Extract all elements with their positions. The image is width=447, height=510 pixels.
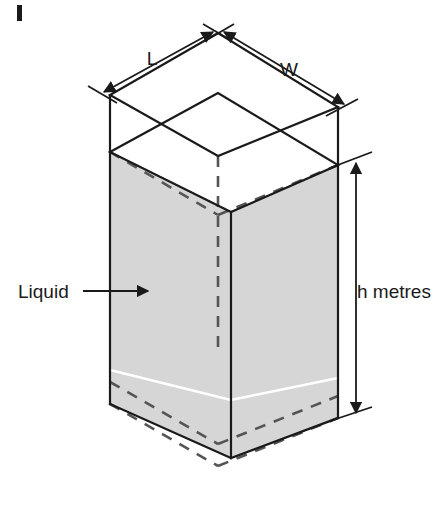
arrow-length bbox=[104, 32, 213, 92]
figure-root: L W h metres Liquid bbox=[0, 0, 447, 510]
liquid-body bbox=[110, 152, 338, 458]
label-width: W bbox=[280, 59, 298, 80]
page-edge-mark bbox=[17, 5, 22, 21]
dimension-height: h metres bbox=[330, 152, 431, 421]
ext-line-height-top bbox=[330, 152, 372, 168]
label-length: L bbox=[147, 48, 158, 69]
liquid-prism-diagram: L W h metres Liquid bbox=[0, 0, 447, 510]
label-liquid: Liquid bbox=[18, 281, 69, 302]
top-rim bbox=[110, 33, 338, 156]
dimension-length: L bbox=[88, 24, 232, 103]
liquid-face-right bbox=[231, 165, 338, 458]
ext-line-width-apex bbox=[205, 24, 234, 41]
label-height: h metres bbox=[357, 281, 431, 302]
